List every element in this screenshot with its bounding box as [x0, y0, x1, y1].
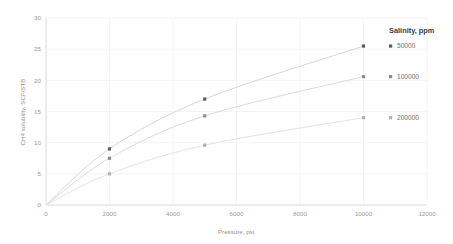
y-tick-label: 25: [34, 45, 41, 52]
y-tick-label: 0: [38, 201, 42, 208]
legend-marker-50000: [389, 44, 392, 47]
legend-label-100000[interactable]: 100000: [397, 73, 419, 80]
y-axis-title: CH4 solubility, SCF/STB: [19, 79, 26, 146]
y-tick-label: 5: [38, 170, 42, 177]
data-point: [362, 44, 365, 47]
x-tick-label: 4000: [166, 210, 180, 217]
x-axis-title: Pressure, psi: [218, 228, 254, 235]
data-point: [108, 172, 111, 175]
y-tick-label: 15: [34, 108, 41, 115]
data-point: [203, 114, 206, 117]
x-axis-tick-labels: 020004000600080001000012000: [44, 210, 436, 217]
data-point: [108, 147, 111, 150]
legend-label-200000[interactable]: 200000: [397, 114, 419, 121]
y-tick-label: 10: [34, 139, 41, 146]
solubility-scatter-chart: 051015202530 020004000600080001000012000…: [0, 0, 453, 244]
data-point: [108, 157, 111, 160]
legend-marker-200000: [389, 116, 392, 119]
y-tick-label: 30: [34, 14, 41, 21]
x-tick-label: 0: [44, 210, 48, 217]
legend-label-50000[interactable]: 50000: [397, 42, 416, 49]
data-point: [362, 75, 365, 78]
y-axis-tick-labels: 051015202530: [34, 14, 41, 208]
x-tick-label: 12000: [418, 210, 436, 217]
data-point: [203, 144, 206, 147]
y-tick-label: 20: [34, 77, 41, 84]
x-tick-label: 10000: [355, 210, 373, 217]
legend-marker-100000: [389, 75, 392, 78]
legend-title: Salinity, ppm: [389, 26, 435, 35]
x-tick-label: 2000: [103, 210, 117, 217]
data-point: [362, 116, 365, 119]
chart-container: 051015202530 020004000600080001000012000…: [0, 0, 453, 244]
x-tick-label: 6000: [230, 210, 244, 217]
x-tick-label: 8000: [293, 210, 307, 217]
data-point: [203, 97, 206, 100]
